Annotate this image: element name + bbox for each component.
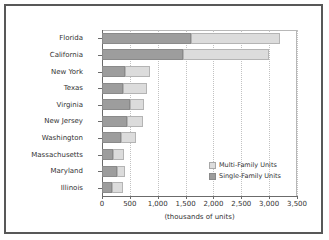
figure-frame: 05001,0001,5002,0002,5003,0003,500 Flori… [4, 4, 323, 234]
x-tick-label: 2,000 [203, 200, 223, 208]
category-label-washington: Washington [42, 134, 83, 142]
bar-segment-multi-family [123, 83, 147, 94]
bar-segment-single-family [102, 49, 183, 60]
bar-row [102, 49, 297, 60]
legend-swatch-single-family-icon [209, 173, 216, 180]
bar-segment-single-family [102, 132, 121, 143]
bar-segment-multi-family [125, 66, 150, 77]
category-label-virginia: Virginia [57, 101, 83, 109]
bar-row [102, 99, 297, 110]
bar-segment-single-family [102, 182, 112, 193]
category-label-massachusetts: Massachusetts [31, 151, 83, 159]
x-tick-label: 3,000 [259, 200, 279, 208]
x-tick-mark [102, 196, 103, 199]
category-label-illinois: Illinois [61, 184, 83, 192]
bar-segment-multi-family [191, 33, 280, 44]
bar-segment-multi-family [183, 49, 269, 60]
x-tick-mark [130, 196, 131, 199]
bar-segment-single-family [102, 166, 117, 177]
bar-row [102, 116, 297, 127]
legend-item-multi-family: Multi-Family Units [209, 161, 281, 169]
bar-segment-multi-family [113, 149, 124, 160]
x-tick-mark [186, 196, 187, 199]
bar-segment-single-family [102, 149, 113, 160]
x-tick-label: 1,500 [176, 200, 196, 208]
stacked-bar-chart: 05001,0001,5002,0002,5003,0003,500 Flori… [6, 6, 321, 232]
x-tick-mark [241, 196, 242, 199]
x-tick-label: 500 [123, 200, 136, 208]
legend-label-single-family: Single-Family Units [219, 172, 281, 180]
bar-row [102, 182, 297, 193]
bar-segment-multi-family [130, 99, 144, 110]
category-label-new-york: New York [51, 68, 83, 76]
legend-swatch-multi-family-icon [209, 162, 216, 169]
x-tick-label: 1,000 [148, 200, 168, 208]
x-tick-label: 2,500 [231, 200, 251, 208]
bar-row [102, 33, 297, 44]
bar-segment-multi-family [121, 132, 136, 143]
x-tick-label: 0 [100, 200, 104, 208]
x-tick-mark [269, 196, 270, 199]
bar-segment-single-family [102, 66, 125, 77]
bar-segment-multi-family [117, 166, 125, 177]
bar-segment-multi-family [127, 116, 143, 127]
x-axis-label: (thousands of units) [102, 213, 297, 221]
legend-item-single-family: Single-Family Units [209, 172, 281, 180]
x-tick-mark [158, 196, 159, 199]
bar-row [102, 66, 297, 77]
x-tick-mark [213, 196, 214, 199]
bar-segment-single-family [102, 116, 127, 127]
category-label-maryland: Maryland [51, 167, 83, 175]
bar-segment-single-family [102, 33, 191, 44]
bar-segment-multi-family [112, 182, 123, 193]
x-tick-label: 3,500 [287, 200, 307, 208]
category-label-california: California [50, 51, 83, 59]
gridline [297, 30, 298, 196]
bar-row [102, 83, 297, 94]
category-label-new-jersey: New Jersey [44, 117, 83, 125]
bar-segment-single-family [102, 99, 130, 110]
legend-label-multi-family: Multi-Family Units [219, 161, 277, 169]
x-tick-mark [297, 196, 298, 199]
category-label-florida: Florida [59, 34, 83, 42]
bar-row [102, 149, 297, 160]
bar-row [102, 132, 297, 143]
chart-legend: Multi-Family Units Single-Family Units [209, 161, 281, 183]
category-label-texas: Texas [64, 84, 83, 92]
bar-segment-single-family [102, 83, 123, 94]
